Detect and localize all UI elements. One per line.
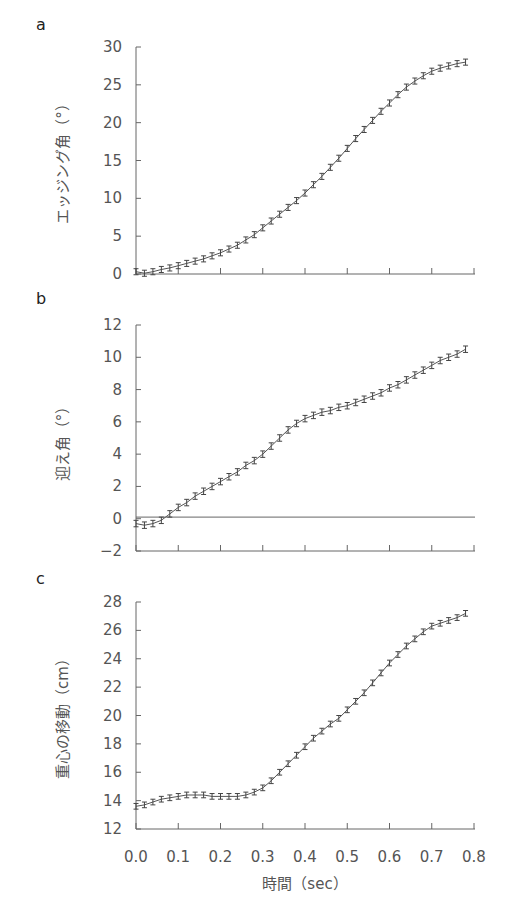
panel-a-y-tick-label: 0 — [112, 265, 122, 283]
panel-a-y-tick-label: 30 — [103, 38, 122, 56]
panel-b-data-point — [463, 346, 468, 352]
panel-c-series-line — [136, 613, 466, 806]
panel-c-y-tick-label: 26 — [103, 621, 122, 639]
panel-b-ylabel: 迎え角（°） — [54, 399, 72, 482]
panel-b-data-point — [235, 469, 240, 475]
panel-a-data-point — [210, 253, 215, 259]
x-tick-label: 0.3 — [251, 848, 275, 866]
panel-b-label: b — [36, 289, 46, 308]
x-tick-label: 0.1 — [166, 848, 190, 866]
panel-b-data-point — [201, 488, 206, 494]
panel-b-data-point — [218, 478, 223, 484]
x-tick-label: 0.4 — [293, 848, 317, 866]
panel-a: a エッジング角（°） 051015202530 — [36, 15, 475, 283]
panel-a-data-point — [286, 204, 291, 210]
panel-a-y-tick-label: 20 — [103, 114, 122, 132]
panel-b-data-point — [395, 382, 400, 388]
x-tick-label: 0.6 — [378, 848, 402, 866]
panel-a-y-tick-label: 15 — [103, 152, 122, 170]
panel-c-y-tick-label: 28 — [103, 593, 122, 611]
panel-c-y-tick-label: 12 — [103, 820, 122, 838]
panel-a-label: a — [36, 15, 46, 34]
panel-b-data-point — [167, 511, 172, 517]
panel-b-data-point — [193, 493, 198, 499]
panel-b-data-point — [429, 362, 434, 368]
x-tick-label: 0.0 — [124, 848, 148, 866]
panel-c-data-point — [438, 620, 443, 626]
panel-c-data-point — [252, 789, 257, 795]
panel-b-data-point — [226, 474, 231, 480]
panel-b-y-tick-label: −2 — [100, 542, 122, 560]
figure: a エッジング角（°） 051015202530 b 迎え角（°） −20246… — [0, 0, 511, 915]
panel-b-data-point — [370, 393, 375, 399]
panel-b-y-tick-label: 6 — [112, 413, 122, 431]
panel-b-data-point — [446, 354, 451, 360]
x-tick-label: 0.5 — [335, 848, 359, 866]
panel-a-data-point — [243, 237, 248, 243]
panel-a-data-point — [429, 68, 434, 74]
panel-b-data-point — [387, 385, 392, 391]
panel-a-ylabel: エッジング角（°） — [54, 96, 72, 224]
panel-b-data-point — [438, 357, 443, 363]
panel-a-y-tick-label: 5 — [112, 227, 122, 245]
panel-b-data-point — [303, 415, 308, 421]
panel-c-y-tick-label: 20 — [103, 707, 122, 725]
panel-b-data-point — [210, 483, 215, 489]
panel-c-ylabel: 重心の移動（cm） — [54, 651, 72, 779]
panel-c-data-point — [446, 618, 451, 624]
panel-b-y-tick-label: 2 — [112, 477, 122, 495]
x-tick-label: 0.7 — [420, 848, 444, 866]
panel-c-data-point — [150, 799, 155, 805]
panel-a-y-tick-label: 10 — [103, 189, 122, 207]
panel-c-data-point — [463, 611, 468, 617]
panel-b-y-tick-label: 0 — [112, 510, 122, 528]
panel-b-data-point — [362, 396, 367, 402]
panel-c-y-tick-label: 16 — [103, 763, 122, 781]
panel-a-data-point — [218, 250, 223, 256]
panel-b-data-point — [176, 504, 181, 510]
panel-c: c 重心の移動（cm） 121416182022242628 — [36, 569, 475, 838]
panel-a-data-point — [277, 211, 282, 217]
panel-b-data-point — [159, 517, 164, 523]
panel-b-data-point — [311, 412, 316, 418]
panel-a-data-point — [226, 246, 231, 252]
panel-a-data-point — [235, 242, 240, 248]
x-tick-label: 0.8 — [462, 848, 486, 866]
panel-c-data-point — [455, 615, 460, 621]
panel-c-label: c — [36, 569, 45, 588]
panel-b-data-point — [455, 351, 460, 357]
x-axis-title: 時間（sec） — [262, 875, 347, 893]
panel-b-y-tick-label: 12 — [103, 316, 122, 334]
panel-a-series-line — [136, 62, 466, 273]
panel-b-series-line — [136, 349, 466, 525]
panel-a-data-point — [252, 232, 257, 238]
panel-b-data-point — [243, 462, 248, 468]
panel-b-data-point — [404, 377, 409, 383]
panel-b-data-point — [412, 372, 417, 378]
x-tick-labels: 0.00.10.20.30.40.50.60.70.8 — [124, 848, 486, 866]
panel-a-data-point — [421, 73, 426, 79]
panel-b-data-point — [252, 457, 257, 463]
panel-c-y-tick-label: 14 — [103, 792, 122, 810]
panel-b-data-point — [294, 420, 299, 426]
x-tick-label: 0.2 — [209, 848, 233, 866]
panel-b-y-tick-label: 8 — [112, 381, 122, 399]
panel-b: b 迎え角（°） −2024681012 — [36, 289, 475, 560]
panel-a-data-point — [412, 78, 417, 84]
panel-b-data-point — [184, 499, 189, 505]
panel-a-data-point — [260, 225, 265, 231]
panel-b-data-point — [421, 367, 426, 373]
panel-a-y-tick-label: 25 — [103, 76, 122, 94]
panel-b-data-point — [379, 390, 384, 396]
panel-c-y-tick-label: 18 — [103, 735, 122, 753]
panel-c-data-point — [429, 623, 434, 629]
panel-a-data-point — [269, 218, 274, 224]
panel-b-y-tick-label: 10 — [103, 348, 122, 366]
panel-b-y-tick-label: 4 — [112, 445, 122, 463]
panel-b-data-point — [353, 399, 358, 405]
panel-c-y-tick-label: 24 — [103, 650, 122, 668]
panel-c-y-tick-label: 22 — [103, 678, 122, 696]
